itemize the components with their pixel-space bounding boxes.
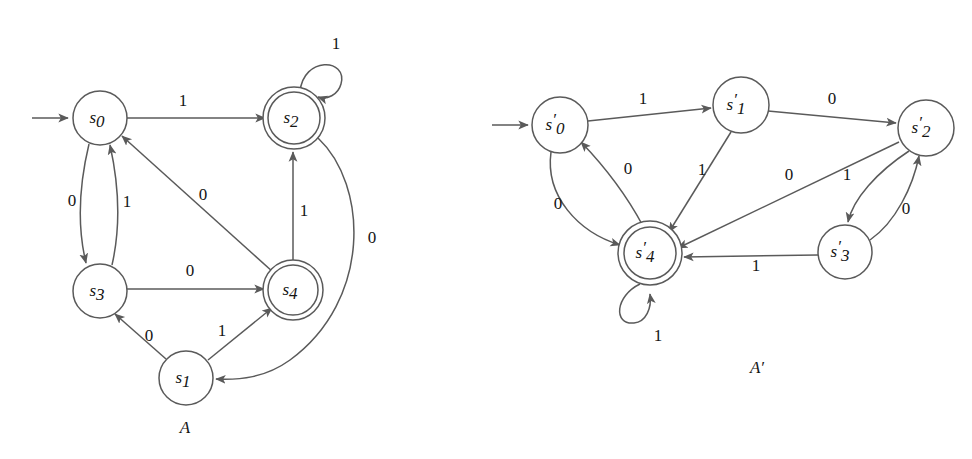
edge-s3-s0 <box>110 145 118 265</box>
edge-label-s0p-s1p: 1 <box>639 89 648 108</box>
state-node-s2p[interactable]: s′2 <box>898 100 954 156</box>
state-node-s1[interactable]: s1 <box>159 351 213 405</box>
state-node-s2[interactable]: s2 <box>263 87 325 149</box>
edge-s0p-s1p <box>588 108 711 121</box>
state-node-s4p[interactable]: s′4 <box>618 221 682 285</box>
edge-label-s4-s2: 1 <box>300 201 309 220</box>
automata-figure: s0 s2 s3 s4 s1 1 1 0 <box>0 0 972 459</box>
state-node-s3p[interactable]: s′3 <box>818 225 872 279</box>
automata-canvas: s0 s2 s3 s4 s1 1 1 0 <box>0 0 972 459</box>
edge-s4p-s4p-self-loop <box>620 284 651 323</box>
state-node-s3[interactable]: s3 <box>73 264 127 318</box>
edge-label-s0p-s4p: 0 <box>554 194 563 213</box>
state-node-s0[interactable]: s0 <box>73 91 127 145</box>
edge-label-s2-s1: 0 <box>368 228 377 247</box>
edge-label-s1p-s2p: 0 <box>828 89 837 108</box>
edge-s1p-s2p <box>768 111 896 123</box>
edge-s1p-s4p <box>669 132 731 232</box>
edge-s1-s3 <box>115 314 166 359</box>
edge-label-s2-s2: 1 <box>332 34 341 53</box>
edge-label-s4p-s0p: 0 <box>624 159 633 178</box>
edge-s3p-s2p <box>870 156 919 240</box>
automaton-A: s0 s2 s3 s4 s1 1 1 0 <box>32 34 376 437</box>
edge-label-s4-s0: 0 <box>199 185 208 204</box>
edge-label-s1-s4: 1 <box>218 321 227 340</box>
edge-label-s3-s0: 1 <box>123 192 132 211</box>
edge-label-s3-s4: 0 <box>186 261 195 280</box>
edge-label-s3p-s4p: 1 <box>752 256 761 275</box>
edge-label-s0-s3: 0 <box>68 191 77 210</box>
edge-s2p-s4p <box>678 142 899 248</box>
caption-A-prime: A′ <box>749 358 764 377</box>
edge-label-s3p-s2p: 0 <box>902 199 911 218</box>
state-node-s0p[interactable]: s′0 <box>532 97 588 153</box>
edge-label-s4p-s4p: 1 <box>654 326 663 345</box>
edge-s4-s0 <box>122 136 273 272</box>
automaton-A-prime: s′0 s′1 s′2 s′4 s′3 1 0 0 0 <box>492 77 954 377</box>
edge-label-s1p-s4p: 1 <box>698 160 707 179</box>
edge-label-s1-s3: 0 <box>145 326 154 345</box>
state-node-s1p[interactable]: s′1 <box>713 77 769 133</box>
state-node-s4[interactable]: s4 <box>263 260 323 320</box>
edge-s2-s1 <box>216 138 354 379</box>
edge-label-s2p-s3p: 1 <box>843 165 852 184</box>
edge-s0-s3 <box>80 144 89 263</box>
edge-label-s2p-s4p: 0 <box>785 165 794 184</box>
edge-s4p-s0p <box>581 142 643 226</box>
caption-A: A <box>179 418 191 437</box>
edge-label-s0-s2: 1 <box>179 91 188 110</box>
